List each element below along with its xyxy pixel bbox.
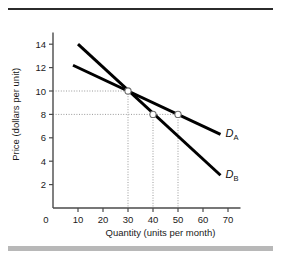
demand-curve-b: [78, 44, 221, 175]
y-axis-tick-label: 2: [41, 179, 46, 190]
y-axis-tick-label: 8: [41, 109, 46, 120]
x-axis-title: Quantity (units per month): [106, 227, 216, 238]
y-axis-tick-label: 12: [35, 62, 46, 73]
data-point-marker: [125, 88, 131, 94]
x-axis-tick-label: 20: [98, 214, 109, 225]
curve-label-a: DA: [226, 127, 239, 142]
demand-curve-a: [73, 65, 221, 134]
bottom-gray-band: [8, 246, 273, 251]
x-axis-tick-label: 0: [43, 214, 48, 225]
y-axis-tick-label: 6: [41, 132, 46, 143]
x-axis-tick-label: 10: [73, 214, 84, 225]
y-axis-tick-label: 4: [41, 156, 46, 167]
x-axis-tick-label: 50: [173, 214, 184, 225]
data-point-marker: [150, 111, 156, 117]
x-axis-tick-label: 30: [123, 214, 134, 225]
y-axis-tick-label: 10: [35, 86, 46, 97]
curve-label-b: DB: [226, 168, 239, 183]
data-point-marker: [175, 111, 181, 117]
x-axis-tick-label: 60: [198, 214, 209, 225]
y-axis-title: Price (dollars per unit): [10, 68, 21, 161]
x-axis-tick-label: 70: [223, 214, 234, 225]
x-axis-tick-label: 40: [148, 214, 159, 225]
figure-container: 2468101214010203040506070Quantity (units…: [0, 0, 281, 256]
y-axis-tick-label: 14: [35, 39, 46, 50]
demand-curve-chart: 2468101214010203040506070Quantity (units…: [0, 0, 281, 256]
